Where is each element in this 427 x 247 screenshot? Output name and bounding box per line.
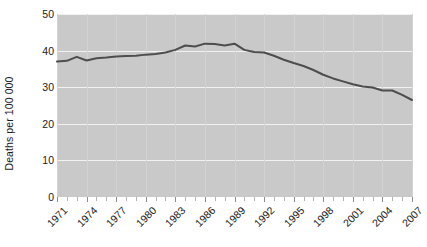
line-chart-figure: Deaths per 100 000 01020304050 197119741… xyxy=(0,0,427,247)
x-axis-tick-labels: 1971197419771980198319861989199219951998… xyxy=(0,0,427,247)
